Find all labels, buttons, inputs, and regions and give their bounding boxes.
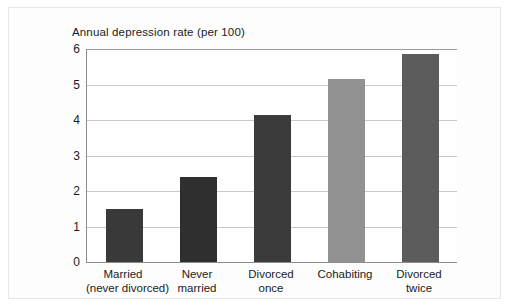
x-axis-tick-label: Divorcedonce xyxy=(234,267,308,295)
x-axis-tick-label-line1: Never xyxy=(182,268,213,280)
y-axis-tick-label: 4 xyxy=(54,113,80,127)
gridline xyxy=(87,49,457,50)
x-axis-tick-label-line2: twice xyxy=(382,281,456,295)
y-axis-tick-label: 1 xyxy=(54,220,80,234)
bar xyxy=(328,79,365,262)
y-axis-tick-label: 3 xyxy=(54,149,80,163)
x-axis-tick-label-line1: Divorced xyxy=(248,268,293,280)
y-axis-tick-label: 2 xyxy=(54,184,80,198)
bar xyxy=(402,54,439,262)
x-axis-tick-label: Cohabiting xyxy=(308,267,382,281)
y-axis-tick-label: 6 xyxy=(54,42,80,56)
y-axis-tick-label: 5 xyxy=(54,78,80,92)
x-axis-tick-label-line2: married xyxy=(160,281,234,295)
x-axis-tick-label: Nevermarried xyxy=(160,267,234,295)
x-axis-tick-label-line1: Divorced xyxy=(396,268,441,280)
chart-title: Annual depression rate (per 100) xyxy=(72,26,245,38)
plot-area xyxy=(86,49,457,263)
x-axis-tick-label: Divorcedtwice xyxy=(382,267,456,295)
x-axis-tick-label-line2: (never divorced) xyxy=(86,281,160,295)
chart-figure: Annual depression rate (per 100) 0123456… xyxy=(0,0,509,307)
y-axis-tick-label: 0 xyxy=(54,255,80,269)
x-axis-tick-labels: Married(never divorced)NevermarriedDivor… xyxy=(86,267,457,305)
x-axis-tick-label-line2: once xyxy=(234,281,308,295)
y-axis-tick-labels: 0123456 xyxy=(52,49,80,263)
bar xyxy=(106,209,143,262)
x-axis-tick-label: Married(never divorced) xyxy=(86,267,160,295)
bar xyxy=(180,177,217,262)
x-axis-tick-label-line1: Cohabiting xyxy=(318,268,373,280)
x-axis-tick-label-line1: Married xyxy=(104,268,143,280)
bar xyxy=(254,115,291,262)
